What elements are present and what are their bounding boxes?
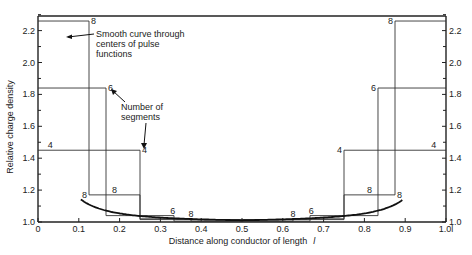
x-tick-label: 0.4	[195, 224, 208, 234]
x-tick-label: 0.6	[277, 224, 290, 234]
segment-count-label: 4	[337, 145, 342, 155]
segment-count-label: 6	[170, 206, 175, 216]
y-tick-label-left: 2.2	[22, 26, 35, 36]
annotation-segments-line-1: Number of	[121, 102, 164, 112]
y-tick-label-right: 2.0	[449, 58, 462, 68]
annotation-curve-line-3: functions	[96, 49, 133, 59]
x-tick-label: 0.7	[317, 224, 330, 234]
annotation-curve-line-2: centers of pulse	[96, 39, 160, 49]
x-tick-label: 0.2	[113, 224, 126, 234]
step-series-6	[38, 88, 446, 221]
x-axis-label-text: Distance along conductor of length	[169, 236, 308, 246]
annotations: Smooth curve through centers of pulse fu…	[66, 29, 185, 149]
y-tick-label-right: 1.2	[449, 185, 462, 195]
segment-count-label: 6	[309, 206, 314, 216]
y-tick-label-right: 1.6	[449, 121, 462, 131]
segment-count-label: 8	[397, 190, 402, 200]
y-tick-label-left: 1.4	[22, 153, 35, 163]
x-tick-label: 0	[35, 224, 40, 234]
annotation-curve-line-1: Smooth curve through	[96, 29, 185, 39]
x-tick-label: 0.9	[399, 224, 412, 234]
x-axis-label: Distance along conductor of lengthl	[169, 236, 317, 246]
y-tick-label-left: 1.0	[22, 217, 35, 227]
segment-count-label: 8	[290, 209, 295, 219]
segment-count-label: 8	[367, 185, 372, 195]
y-tick-label-right: 1.4	[449, 153, 462, 163]
x-tick-label: 0.8	[358, 224, 371, 234]
segment-count-label: 4	[48, 140, 53, 150]
y-tick-label-right: 2.2	[449, 26, 462, 36]
y-tick-label-left: 2.0	[22, 58, 35, 68]
y-tick-label-left: 1.8	[22, 89, 35, 99]
annotation-segments-arrow-4	[144, 123, 146, 145]
y-axis-right: 1.01.21.41.61.82.02.2	[442, 15, 462, 227]
arrowhead-icon	[66, 35, 72, 40]
segment-count-label: 8	[112, 185, 117, 195]
segment-count-label: 6	[371, 83, 376, 93]
x-tick-label: 0.3	[154, 224, 167, 234]
segment-count-label: 8	[82, 190, 87, 200]
y-tick-label-right: 1.8	[449, 89, 462, 99]
segment-count-label: 8	[91, 16, 96, 26]
x-axis-label-symbol: l	[313, 236, 316, 246]
charge-density-chart: 1.01.21.41.61.82.02.2 1.01.21.41.61.82.0…	[0, 0, 472, 255]
y-tick-label-left: 1.2	[22, 185, 35, 195]
x-tick-label: 1.0l	[439, 224, 454, 234]
y-axis-label: Relative charge density	[5, 80, 15, 174]
annotation-segments-line-2: segments	[121, 112, 161, 122]
x-tick-label: 0.1	[73, 224, 86, 234]
smooth-curve	[81, 200, 403, 221]
segment-count-label: 8	[388, 16, 393, 26]
smooth-curve-line	[81, 200, 403, 221]
y-axis-left: 1.01.21.41.61.82.02.2	[22, 15, 42, 227]
x-tick-label: 0.5	[236, 224, 249, 234]
segment-count-label: 8	[188, 209, 193, 219]
y-tick-label-left: 1.6	[22, 121, 35, 131]
segment-count-label: 4	[431, 140, 436, 150]
